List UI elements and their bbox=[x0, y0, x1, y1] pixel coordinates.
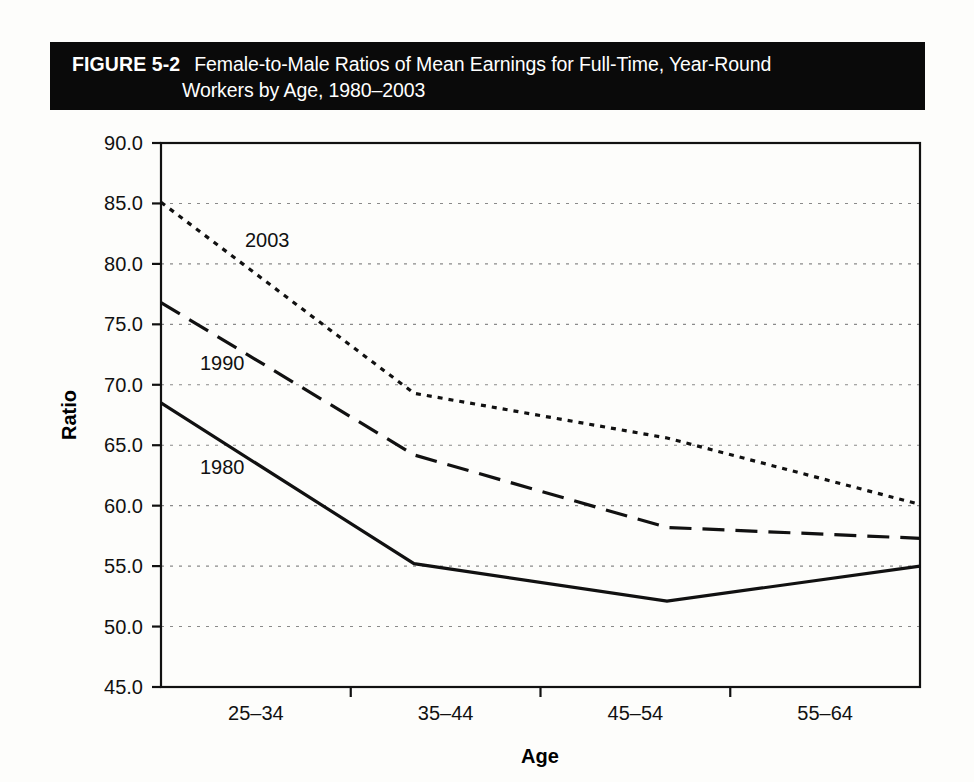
x-tick-label-45–54: 45–54 bbox=[608, 702, 664, 724]
y-axis-ticks: 90.085.080.075.070.065.060.055.050.045.0 bbox=[104, 132, 161, 698]
plot-frame bbox=[161, 143, 920, 687]
y-axis-title: Ratio bbox=[58, 390, 80, 440]
chart-series-labels: 200319901980 bbox=[200, 229, 290, 478]
y-tick-label-80: 80.0 bbox=[104, 253, 143, 275]
series-line-1990 bbox=[161, 303, 920, 539]
chart-series-group bbox=[161, 202, 920, 601]
series-label-2003: 2003 bbox=[245, 229, 290, 251]
y-tick-label-85: 85.0 bbox=[104, 192, 143, 214]
y-tick-label-65: 65.0 bbox=[104, 434, 143, 456]
y-tick-label-90: 90.0 bbox=[104, 132, 143, 154]
x-tick-label-35–44: 35–44 bbox=[418, 702, 474, 724]
series-line-1980 bbox=[161, 403, 920, 601]
x-tick-label-55–64: 55–64 bbox=[797, 702, 853, 724]
x-axis-ticks: 25–3435–4445–5455–64 bbox=[228, 687, 853, 724]
y-tick-label-50: 50.0 bbox=[104, 616, 143, 638]
chart-axes-frame bbox=[161, 143, 920, 687]
figure-container: FIGURE 5-2Female-to-Male Ratios of Mean … bbox=[0, 0, 974, 782]
y-tick-label-60: 60.0 bbox=[104, 495, 143, 517]
x-tick-label-25–34: 25–34 bbox=[228, 702, 284, 724]
chart-gridlines bbox=[161, 203, 920, 626]
series-label-1980: 1980 bbox=[200, 456, 245, 478]
y-tick-label-55: 55.0 bbox=[104, 555, 143, 577]
x-axis-title: Age bbox=[521, 745, 559, 767]
chart-plot-area: 90.085.080.075.070.065.060.055.050.045.0… bbox=[0, 0, 974, 782]
series-label-1990: 1990 bbox=[200, 352, 245, 374]
y-tick-label-70: 70.0 bbox=[104, 374, 143, 396]
line-chart: 90.085.080.075.070.065.060.055.050.045.0… bbox=[0, 0, 974, 782]
y-tick-label-75: 75.0 bbox=[104, 313, 143, 335]
y-tick-label-45: 45.0 bbox=[104, 676, 143, 698]
